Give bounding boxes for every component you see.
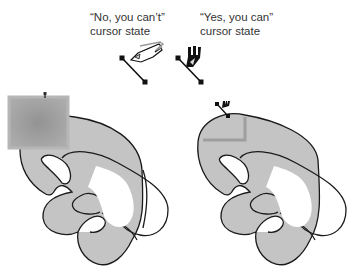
right-example	[198, 101, 346, 265]
pen-cursor-yes-icon	[176, 46, 204, 85]
left-example	[9, 92, 168, 265]
pen-cursor-no-icon	[120, 42, 164, 85]
dragged-selection-rect[interactable]	[9, 97, 68, 148]
right-loop-shape	[198, 114, 346, 265]
